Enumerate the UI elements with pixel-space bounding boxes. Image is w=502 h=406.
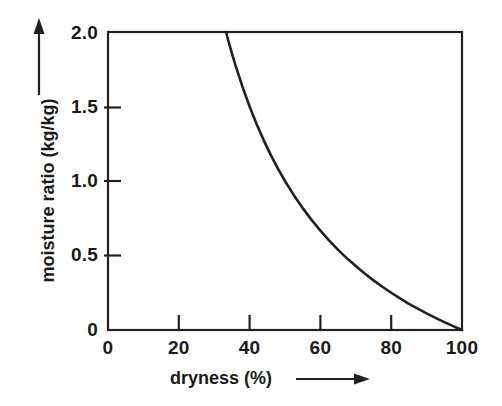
x-tick-label-60: 60 bbox=[310, 337, 332, 359]
x-axis-title: dryness (%) bbox=[170, 368, 272, 389]
x-tick-label-0: 0 bbox=[103, 337, 114, 359]
y-tick-label-1-5: 1.5 bbox=[54, 96, 98, 118]
y-tick-label-0-5: 0.5 bbox=[54, 244, 98, 266]
y-tick-label-2-0: 2.0 bbox=[54, 22, 98, 44]
y-axis-title: moisture ratio (kg/kg) bbox=[38, 61, 59, 321]
y-tick-label-1-0: 1.0 bbox=[54, 170, 98, 192]
x-tick-label-20: 20 bbox=[168, 337, 190, 359]
x-tick-label-80: 80 bbox=[380, 337, 402, 359]
chart-figure: 2.0 1.5 1.0 0.5 0 0 20 40 60 80 100 mois… bbox=[0, 0, 502, 406]
arrow-right-icon bbox=[296, 374, 370, 385]
x-tick-label-100: 100 bbox=[446, 337, 478, 359]
y-tick-label-0: 0 bbox=[54, 319, 98, 341]
x-tick-label-40: 40 bbox=[239, 337, 261, 359]
